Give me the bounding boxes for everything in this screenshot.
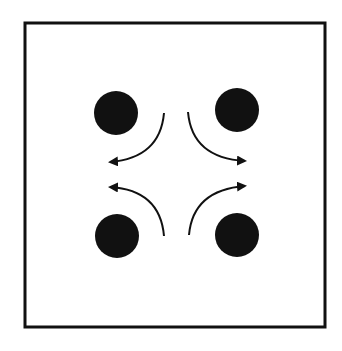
dot-bottom-left (95, 214, 139, 258)
dot-top-left (94, 91, 138, 135)
dot-bottom-right (215, 213, 259, 257)
frame (25, 23, 325, 327)
diagram-canvas (0, 0, 342, 351)
dot-top-right (215, 88, 259, 132)
